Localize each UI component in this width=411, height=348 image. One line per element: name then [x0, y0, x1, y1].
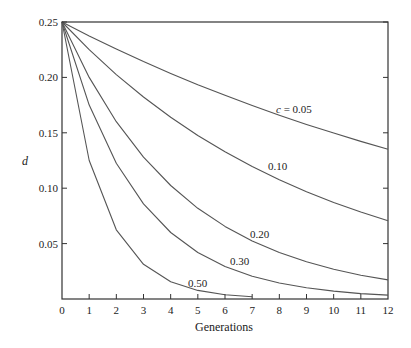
plot-border — [62, 22, 388, 299]
y-tick-label: 0.15 — [39, 127, 59, 139]
curve-label: 0.10 — [268, 160, 288, 172]
x-tick-label: 11 — [356, 304, 367, 316]
curve-010 — [62, 22, 388, 221]
curve-labels: c = 0.050.100.200.300.50 — [188, 103, 312, 289]
curve-label: 0.50 — [188, 277, 208, 289]
y-tick-label: 0.25 — [39, 16, 59, 28]
curve-label: 0.30 — [230, 255, 250, 267]
x-tick-label: 10 — [328, 304, 340, 316]
curve-050 — [62, 22, 252, 297]
y-tick-label: 0.10 — [39, 182, 59, 194]
chart: 01234567891011120.050.100.150.200.25 c =… — [0, 0, 411, 348]
x-tick-label: 8 — [277, 304, 283, 316]
x-tick-label: 2 — [114, 304, 120, 316]
curve-label: c = 0.05 — [276, 103, 312, 115]
x-tick-label: 4 — [168, 304, 174, 316]
curve-005 — [62, 22, 388, 149]
y-axis-label: d — [22, 154, 29, 168]
y-tick-label: 0.05 — [39, 238, 59, 250]
curve-label: 0.20 — [250, 228, 270, 240]
curves — [62, 22, 388, 297]
x-tick-label: 7 — [249, 304, 255, 316]
x-tick-label: 3 — [141, 304, 147, 316]
x-tick-label: 0 — [59, 304, 65, 316]
x-tick-label: 12 — [383, 304, 394, 316]
x-tick-label: 9 — [304, 304, 310, 316]
x-tick-label: 6 — [222, 304, 228, 316]
y-tick-label: 0.20 — [39, 71, 59, 83]
x-tick-label: 1 — [86, 304, 92, 316]
plot-frame — [62, 22, 388, 299]
x-tick-label: 5 — [195, 304, 201, 316]
x-axis-label: Generations — [195, 320, 253, 334]
curve-030 — [62, 22, 388, 295]
